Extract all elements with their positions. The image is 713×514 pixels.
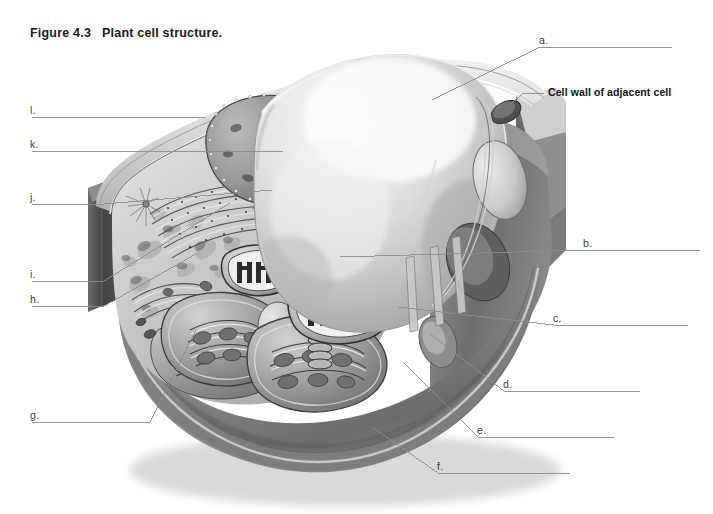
label-g: g. [30,409,39,421]
label-b: b. [583,237,592,249]
label-i: i. [30,268,36,280]
label-a: a. [539,34,548,46]
label-k: k. [30,138,39,150]
label-c: c. [553,312,562,324]
label-f: f. [437,460,443,472]
label-e: e. [477,424,486,436]
callout-cell-wall-of-adjacent-cell: Cell wall of adjacent cell [548,86,671,98]
label-j: j. [30,191,36,203]
label-l: l. [30,104,36,116]
label-d: d. [503,378,512,390]
plant-cell-illustration [0,0,713,514]
label-h: h. [30,293,39,305]
figure-page: Figure 4.3 Plant cell structure. [0,0,713,514]
